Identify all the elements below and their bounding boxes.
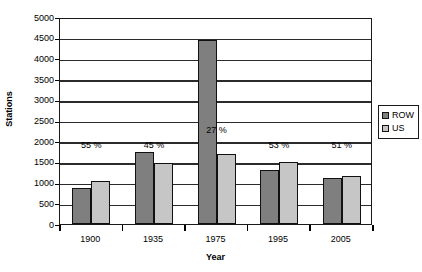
y-tick-mark bbox=[55, 163, 59, 164]
y-tick-label: 4000 bbox=[12, 55, 54, 64]
bar-us-1935 bbox=[154, 163, 173, 224]
y-tick-label: 2500 bbox=[12, 117, 54, 126]
bar-group bbox=[72, 19, 110, 224]
y-tick-label: 0 bbox=[12, 221, 54, 230]
y-tick-label: 1500 bbox=[12, 158, 54, 167]
bar-group bbox=[198, 19, 236, 224]
x-tick-label: 1900 bbox=[60, 234, 120, 244]
y-tick-mark bbox=[55, 39, 59, 40]
y-tick-mark bbox=[55, 18, 59, 19]
legend-item-row: ROW bbox=[382, 109, 414, 122]
legend-label-row: ROW bbox=[392, 111, 414, 120]
y-tick-mark bbox=[55, 184, 59, 185]
x-tick-mark bbox=[184, 225, 186, 231]
bar-group bbox=[323, 19, 361, 224]
bar-group bbox=[260, 19, 298, 224]
y-tick-mark bbox=[55, 59, 59, 60]
y-tick-label: 5000 bbox=[12, 14, 54, 23]
bars-layer bbox=[60, 19, 371, 224]
bar-us-1900 bbox=[91, 181, 110, 224]
x-tick-mark bbox=[122, 225, 124, 231]
y-tick-mark bbox=[55, 80, 59, 81]
bar-us-2005 bbox=[342, 176, 361, 224]
y-tick-mark bbox=[55, 101, 59, 102]
bar-row-1935 bbox=[135, 152, 154, 224]
x-tick-label: 1975 bbox=[186, 234, 246, 244]
x-tick-label: 2005 bbox=[311, 234, 371, 244]
legend-swatch-us-icon bbox=[382, 125, 389, 132]
y-tick-label: 500 bbox=[12, 200, 54, 209]
legend-swatch-row-icon bbox=[382, 112, 389, 119]
x-tick-label: 1995 bbox=[248, 234, 308, 244]
y-tick-mark bbox=[55, 204, 59, 205]
bar-us-1975 bbox=[217, 154, 236, 224]
y-tick-label: 1000 bbox=[12, 179, 54, 188]
percent-annotation: 53 % bbox=[259, 140, 299, 150]
bar-us-1995 bbox=[279, 162, 298, 224]
x-axis-title: Year bbox=[59, 252, 372, 262]
y-tick-label: 3000 bbox=[12, 96, 54, 105]
bar-chart: Stations 0500100015002000250030003500400… bbox=[0, 0, 422, 272]
y-tick-mark bbox=[55, 122, 59, 123]
percent-annotation: 51 % bbox=[322, 140, 362, 150]
percent-annotation: 55 % bbox=[71, 140, 111, 150]
x-tick-mark bbox=[309, 225, 311, 231]
plot-area: 55 %45 %27 %53 %51 % bbox=[59, 18, 372, 225]
x-tick-mark bbox=[372, 225, 374, 231]
y-axis-tick-labels: 0500100015002000250030003500400045005000 bbox=[12, 18, 54, 225]
legend-item-us: US bbox=[382, 122, 414, 135]
bar-row-2005 bbox=[323, 178, 342, 224]
bar-row-1900 bbox=[72, 188, 91, 224]
bar-row-1995 bbox=[260, 170, 279, 224]
legend-label-us: US bbox=[392, 124, 405, 133]
percent-annotation: 27 % bbox=[197, 125, 237, 135]
y-tick-label: 4500 bbox=[12, 34, 54, 43]
y-tick-mark bbox=[55, 142, 59, 143]
x-tick-label: 1935 bbox=[123, 234, 183, 244]
y-tick-mark bbox=[55, 225, 59, 226]
y-tick-label: 3500 bbox=[12, 76, 54, 85]
y-tick-label: 2000 bbox=[12, 138, 54, 147]
x-tick-mark bbox=[247, 225, 249, 231]
percent-annotation: 45 % bbox=[134, 140, 174, 150]
x-tick-mark bbox=[59, 225, 61, 231]
chart-legend: ROW US bbox=[378, 105, 419, 139]
bar-group bbox=[135, 19, 173, 224]
